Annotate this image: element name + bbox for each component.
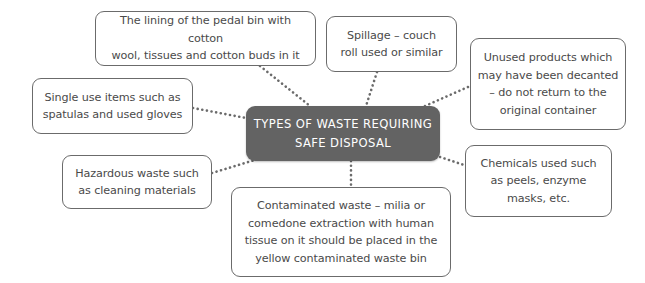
center-topic-line2: SAFE DISPOSAL [254, 134, 432, 153]
node-text-line: roll used or similar [341, 44, 443, 62]
connector-lining [260, 66, 310, 106]
node-spillage: Spillage – couch roll used or similar [326, 16, 457, 72]
node-text-line: Single use items such as [43, 89, 183, 107]
connector-single-use [193, 108, 246, 118]
node-text-line: Hazardous waste such [75, 165, 199, 183]
node-text-line: may have been decanted [478, 67, 619, 85]
node-text-line: The lining of the pedal bin with cotton [102, 12, 309, 47]
node-chemicals: Chemicals used such as peels, enzyme mas… [465, 145, 612, 217]
connector-chemicals [440, 157, 464, 165]
node-text-line: spatulas and used gloves [43, 106, 183, 124]
node-text-line: original container [478, 102, 619, 120]
node-text-line: yellow contaminated waste bin [245, 250, 438, 268]
connector-unused [425, 87, 468, 106]
node-text-line: Unused products which [478, 49, 619, 67]
connector-spillage [366, 72, 377, 106]
node-text-line: wool, tissues and cotton buds in it [102, 47, 309, 65]
node-text-line: as peels, enzyme [480, 172, 596, 190]
node-text-line: Contaminated waste – milia or [245, 197, 438, 215]
node-text-line: Chemicals used such [480, 155, 596, 173]
node-text-line: – do not return to the [478, 84, 619, 102]
connector-hazardous [212, 160, 255, 173]
node-text-line: Spillage – couch [341, 27, 443, 45]
node-pedal-bin-lining: The lining of the pedal bin with cotton … [95, 11, 316, 66]
node-text-line: as cleaning materials [75, 182, 199, 200]
center-topic: TYPES OF WASTE REQUIRING SAFE DISPOSAL [246, 106, 440, 161]
node-text-line: comedone extraction with human [245, 215, 438, 233]
node-unused-products: Unused products which may have been deca… [470, 38, 626, 130]
node-text-line: tissue on it should be placed in the [245, 232, 438, 250]
node-hazardous-waste: Hazardous waste such as cleaning materia… [62, 155, 212, 209]
center-topic-line1: TYPES OF WASTE REQUIRING [254, 115, 432, 134]
node-text-line: masks, etc. [480, 190, 596, 208]
node-contaminated-waste: Contaminated waste – milia or comedone e… [231, 187, 451, 277]
node-single-use-items: Single use items such as spatulas and us… [32, 78, 193, 134]
